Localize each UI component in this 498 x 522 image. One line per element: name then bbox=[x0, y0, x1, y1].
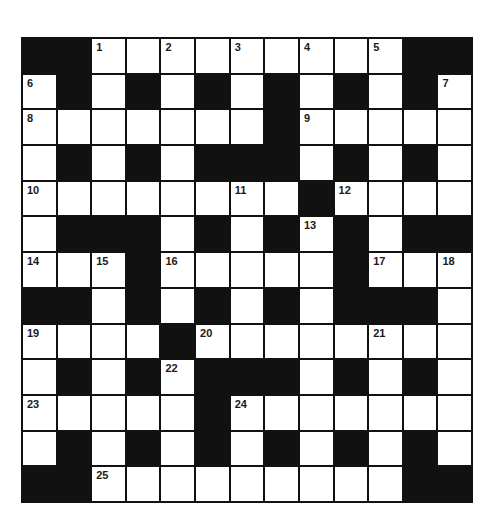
answer-cell[interactable] bbox=[58, 110, 91, 144]
answer-cell[interactable] bbox=[92, 110, 125, 144]
answer-cell[interactable]: 22 bbox=[161, 360, 194, 394]
answer-cell[interactable]: 24 bbox=[231, 396, 264, 430]
answer-cell[interactable]: 1 bbox=[92, 39, 125, 73]
answer-cell[interactable] bbox=[300, 396, 333, 430]
answer-cell[interactable] bbox=[300, 253, 333, 287]
answer-cell[interactable]: 9 bbox=[300, 110, 333, 144]
answer-cell[interactable] bbox=[438, 360, 471, 394]
answer-cell[interactable] bbox=[92, 325, 125, 359]
answer-cell[interactable] bbox=[127, 110, 160, 144]
answer-cell[interactable]: 3 bbox=[231, 39, 264, 73]
answer-cell[interactable] bbox=[231, 289, 264, 323]
answer-cell[interactable] bbox=[404, 325, 437, 359]
answer-cell[interactable]: 12 bbox=[335, 182, 368, 216]
answer-cell[interactable] bbox=[438, 432, 471, 466]
answer-cell[interactable] bbox=[369, 182, 402, 216]
answer-cell[interactable]: 6 bbox=[23, 75, 56, 109]
answer-cell[interactable] bbox=[231, 217, 264, 251]
answer-cell[interactable] bbox=[335, 396, 368, 430]
answer-cell[interactable] bbox=[58, 396, 91, 430]
answer-cell[interactable] bbox=[438, 110, 471, 144]
answer-cell[interactable] bbox=[161, 396, 194, 430]
answer-cell[interactable] bbox=[369, 75, 402, 109]
answer-cell[interactable] bbox=[23, 432, 56, 466]
answer-cell[interactable] bbox=[161, 182, 194, 216]
answer-cell[interactable]: 15 bbox=[92, 253, 125, 287]
answer-cell[interactable] bbox=[231, 110, 264, 144]
answer-cell[interactable] bbox=[92, 396, 125, 430]
answer-cell[interactable] bbox=[300, 75, 333, 109]
answer-cell[interactable] bbox=[92, 360, 125, 394]
answer-cell[interactable] bbox=[404, 253, 437, 287]
answer-cell[interactable] bbox=[231, 325, 264, 359]
answer-cell[interactable] bbox=[127, 325, 160, 359]
answer-cell[interactable] bbox=[161, 217, 194, 251]
answer-cell[interactable] bbox=[369, 110, 402, 144]
answer-cell[interactable]: 13 bbox=[300, 217, 333, 251]
answer-cell[interactable] bbox=[369, 217, 402, 251]
answer-cell[interactable]: 10 bbox=[23, 182, 56, 216]
answer-cell[interactable]: 20 bbox=[196, 325, 229, 359]
answer-cell[interactable] bbox=[265, 325, 298, 359]
answer-cell[interactable] bbox=[369, 467, 402, 501]
answer-cell[interactable] bbox=[58, 325, 91, 359]
answer-cell[interactable] bbox=[92, 182, 125, 216]
answer-cell[interactable] bbox=[335, 467, 368, 501]
answer-cell[interactable] bbox=[92, 146, 125, 180]
answer-cell[interactable] bbox=[231, 432, 264, 466]
answer-cell[interactable] bbox=[404, 182, 437, 216]
answer-cell[interactable]: 19 bbox=[23, 325, 56, 359]
answer-cell[interactable] bbox=[335, 39, 368, 73]
answer-cell[interactable] bbox=[127, 182, 160, 216]
answer-cell[interactable] bbox=[369, 146, 402, 180]
answer-cell[interactable] bbox=[92, 289, 125, 323]
answer-cell[interactable]: 7 bbox=[438, 75, 471, 109]
answer-cell[interactable] bbox=[127, 39, 160, 73]
answer-cell[interactable] bbox=[438, 182, 471, 216]
answer-cell[interactable]: 21 bbox=[369, 325, 402, 359]
answer-cell[interactable] bbox=[438, 396, 471, 430]
answer-cell[interactable]: 14 bbox=[23, 253, 56, 287]
answer-cell[interactable] bbox=[300, 325, 333, 359]
answer-cell[interactable] bbox=[92, 75, 125, 109]
answer-cell[interactable] bbox=[127, 396, 160, 430]
answer-cell[interactable] bbox=[161, 289, 194, 323]
answer-cell[interactable] bbox=[161, 110, 194, 144]
answer-cell[interactable] bbox=[265, 467, 298, 501]
answer-cell[interactable] bbox=[369, 360, 402, 394]
answer-cell[interactable] bbox=[161, 146, 194, 180]
answer-cell[interactable] bbox=[196, 253, 229, 287]
answer-cell[interactable] bbox=[196, 110, 229, 144]
answer-cell[interactable] bbox=[335, 110, 368, 144]
answer-cell[interactable]: 8 bbox=[23, 110, 56, 144]
answer-cell[interactable] bbox=[127, 467, 160, 501]
answer-cell[interactable] bbox=[58, 182, 91, 216]
answer-cell[interactable]: 16 bbox=[161, 253, 194, 287]
answer-cell[interactable] bbox=[404, 396, 437, 430]
answer-cell[interactable] bbox=[438, 289, 471, 323]
answer-cell[interactable] bbox=[23, 146, 56, 180]
answer-cell[interactable] bbox=[265, 182, 298, 216]
answer-cell[interactable]: 18 bbox=[438, 253, 471, 287]
answer-cell[interactable] bbox=[300, 360, 333, 394]
answer-cell[interactable] bbox=[265, 396, 298, 430]
answer-cell[interactable] bbox=[265, 253, 298, 287]
answer-cell[interactable]: 2 bbox=[161, 39, 194, 73]
answer-cell[interactable] bbox=[335, 325, 368, 359]
answer-cell[interactable]: 17 bbox=[369, 253, 402, 287]
answer-cell[interactable] bbox=[231, 253, 264, 287]
answer-cell[interactable] bbox=[23, 217, 56, 251]
answer-cell[interactable] bbox=[300, 146, 333, 180]
answer-cell[interactable] bbox=[231, 75, 264, 109]
answer-cell[interactable] bbox=[369, 396, 402, 430]
answer-cell[interactable]: 23 bbox=[23, 396, 56, 430]
answer-cell[interactable] bbox=[231, 467, 264, 501]
answer-cell[interactable] bbox=[438, 325, 471, 359]
answer-cell[interactable] bbox=[161, 75, 194, 109]
answer-cell[interactable] bbox=[161, 467, 194, 501]
answer-cell[interactable] bbox=[196, 182, 229, 216]
answer-cell[interactable] bbox=[196, 467, 229, 501]
answer-cell[interactable] bbox=[196, 39, 229, 73]
answer-cell[interactable]: 5 bbox=[369, 39, 402, 73]
answer-cell[interactable] bbox=[300, 467, 333, 501]
